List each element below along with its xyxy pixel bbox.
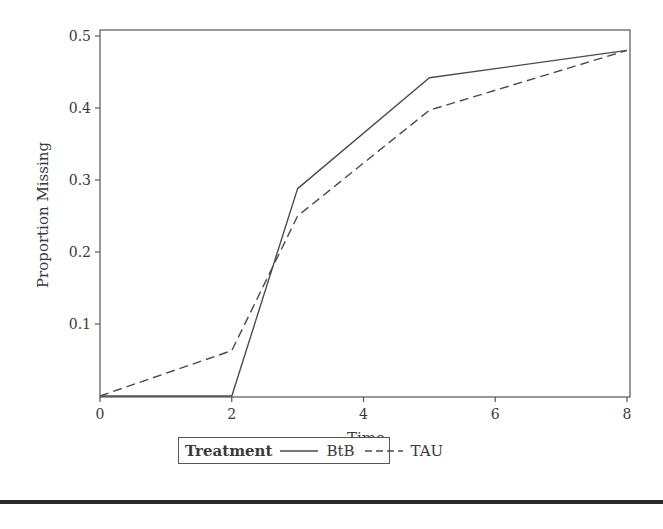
y-axis-title: Proportion Missing	[34, 142, 52, 288]
legend-item-tau: TAU	[363, 442, 444, 460]
x-tick-label: 8	[623, 406, 632, 422]
page-divider	[0, 500, 663, 504]
dashed-line-icon	[363, 446, 405, 456]
x-tick-label: 0	[96, 406, 105, 422]
y-axis: 0.10.20.30.40.5	[69, 28, 100, 332]
series-btb-line	[100, 50, 627, 396]
y-tick-label: 0.3	[69, 172, 91, 188]
series-lines	[100, 50, 627, 396]
x-tick-label: 2	[227, 406, 236, 422]
series-tau-line	[100, 50, 627, 396]
x-tick-label: 6	[491, 406, 500, 422]
solid-line-icon	[278, 446, 320, 456]
x-tick-label: 4	[359, 406, 368, 422]
x-axis: 02468	[96, 397, 632, 422]
y-tick-label: 0.2	[69, 244, 91, 260]
legend: Treatment BtB TAU	[178, 437, 390, 464]
y-tick-label: 0.4	[69, 100, 91, 116]
legend-item-btb: BtB	[278, 442, 354, 460]
y-tick-label: 0.5	[69, 28, 91, 44]
legend-title: Treatment	[185, 442, 272, 460]
y-tick-label: 0.1	[69, 316, 91, 332]
plot-frame	[100, 30, 630, 397]
legend-label-btb: BtB	[326, 442, 354, 460]
plot-border	[100, 30, 630, 397]
legend-label-tau: TAU	[411, 442, 444, 460]
